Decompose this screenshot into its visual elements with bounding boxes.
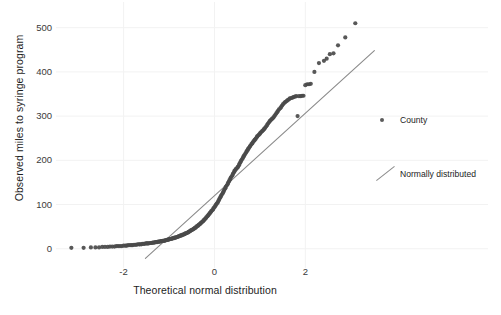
point-marker-icon: [372, 112, 400, 128]
x-tick-label: 0: [199, 266, 229, 277]
line-marker-icon: [372, 166, 400, 182]
plot-area: [60, 10, 378, 262]
qq-plot-figure: 0100200300400500 -202 Observed miles to …: [0, 0, 501, 315]
x-tick-label: 2: [290, 266, 320, 277]
y-tick-label: 0: [18, 243, 52, 254]
legend-label-county: County: [400, 115, 427, 125]
y-axis-label: Observed miles to syringe program: [13, 0, 25, 243]
x-axis-label: Theoretical normal distribution: [60, 284, 350, 296]
legend-item-county[interactable]: County: [372, 112, 427, 128]
legend-label-normally-distributed: Normally distributed: [400, 169, 476, 179]
x-tick-label: -2: [109, 266, 139, 277]
legend-item-normally-distributed[interactable]: Normally distributed: [372, 166, 476, 182]
